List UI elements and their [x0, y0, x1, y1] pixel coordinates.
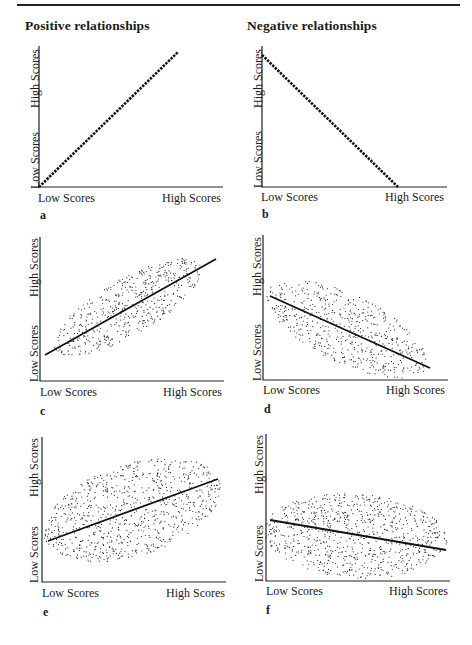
line-b — [262, 55, 398, 187]
axes-d — [263, 235, 448, 380]
regression-line-c — [45, 259, 216, 355]
y-label-low-c: Low Scores — [27, 325, 42, 382]
axes-c — [40, 237, 224, 381]
scatter-dots — [44, 258, 448, 579]
panel-letter-f: f — [266, 603, 270, 618]
panel-letter-b: b — [262, 207, 269, 222]
axes-b — [262, 46, 447, 187]
y-label-high-e: High Scores — [27, 438, 42, 497]
y-label-high-c: High Scores — [27, 238, 42, 297]
y-label-low-a: Low Scores — [28, 132, 43, 189]
perfect-lines — [39, 52, 398, 187]
panel-letter-c: c — [40, 404, 45, 419]
x-label-low-e: Low Scores — [42, 586, 99, 601]
regression-line-d — [270, 296, 430, 368]
x-label-high-b: High Scores — [385, 190, 444, 205]
axes-a — [39, 46, 223, 187]
panel-letter-a: a — [40, 208, 46, 223]
regression-lines — [45, 259, 446, 550]
x-label-high-a: High Scores — [162, 191, 221, 206]
y-label-high-f: High Scores — [252, 435, 267, 494]
x-label-low-d: Low Scores — [263, 383, 320, 398]
y-label-low-b: Low Scores — [251, 131, 266, 188]
x-label-high-c: High Scores — [163, 385, 222, 400]
y-label-low-f: Low Scores — [252, 525, 267, 582]
line-a — [39, 52, 178, 187]
x-label-low-f: Low Scores — [266, 584, 323, 599]
x-label-high-e: High Scores — [166, 586, 225, 601]
panel-letter-d: d — [264, 402, 271, 417]
y-label-high-a: High Scores — [28, 49, 43, 108]
x-label-low-b: Low Scores — [261, 190, 318, 205]
y-label-low-e: Low Scores — [27, 526, 42, 583]
x-label-low-a: Low Scores — [38, 191, 95, 206]
x-label-low-c: Low Scores — [40, 385, 97, 400]
x-label-high-f: High Scores — [389, 584, 448, 599]
panel-letter-e: e — [43, 605, 48, 620]
regression-line-f — [270, 520, 446, 550]
charts-canvas — [0, 0, 472, 645]
y-label-high-b: High Scores — [251, 49, 266, 108]
x-label-high-d: High Scores — [386, 383, 445, 398]
y-label-high-d: High Scores — [250, 237, 265, 296]
regression-line-e — [48, 479, 218, 541]
y-label-low-d: Low Scores — [250, 324, 265, 381]
